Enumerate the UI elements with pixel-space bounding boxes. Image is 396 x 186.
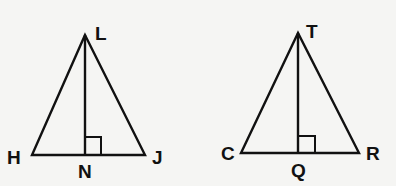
diagram-canvas: L H N J T C Q R xyxy=(0,0,396,186)
right-angle-marker-q xyxy=(298,136,315,153)
label-n: N xyxy=(78,161,92,182)
label-q: Q xyxy=(291,160,306,181)
label-t: T xyxy=(306,21,318,42)
diagram-svg: L H N J T C Q R xyxy=(0,0,396,186)
label-r: R xyxy=(366,143,380,164)
right-angle-marker-n xyxy=(85,137,101,155)
label-h: H xyxy=(7,147,21,168)
label-c: C xyxy=(221,143,235,164)
label-j: J xyxy=(152,147,163,168)
triangle-hlj xyxy=(32,35,145,155)
triangle-ctr xyxy=(241,33,359,153)
label-l: L xyxy=(95,23,107,44)
